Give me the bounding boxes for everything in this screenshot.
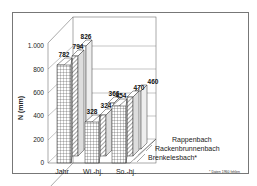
- value-label: 454: [116, 92, 127, 99]
- category-label: Wi.-hj.: [83, 168, 103, 176]
- category-label: Jahr: [55, 168, 69, 175]
- legend-item-rackenbrunnenbach: Rackenbrunnenbach: [155, 145, 220, 152]
- footnote: * Daten 1960 fehlen: [209, 170, 240, 174]
- y-tick: 1.000: [28, 42, 45, 49]
- y-tick: 200: [33, 136, 44, 143]
- legend-item-brenkelesbach: Brenkelesbach*: [148, 154, 197, 161]
- value-label: 470: [134, 84, 145, 91]
- value-label: 324: [101, 102, 112, 109]
- value-label: 782: [59, 51, 70, 58]
- value-label: 826: [81, 33, 92, 40]
- category-label: So.-hj.: [116, 168, 136, 176]
- y-tick: 0: [40, 159, 44, 166]
- value-label: 328: [87, 108, 98, 115]
- y-axis-label: N (mm): [17, 96, 25, 120]
- y-axis: 0 200 400 600 800 1.000 N (mm): [17, 42, 44, 166]
- bar-chart-3d: 0 200 400 600 800 1.000 N (mm): [0, 0, 257, 186]
- y-tick: 600: [33, 89, 44, 96]
- legend-item-rappenbach: Rappenbach: [172, 136, 212, 144]
- y-tick: 800: [33, 66, 44, 73]
- value-label: 460: [148, 78, 159, 85]
- x-axis: Jahr Wi.-hj. So.-hj.: [55, 168, 136, 176]
- y-tick: 400: [33, 112, 44, 119]
- value-label: 794: [73, 43, 84, 50]
